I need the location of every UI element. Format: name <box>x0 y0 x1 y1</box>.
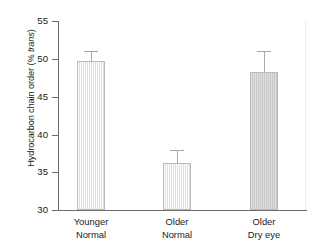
x-category-line2-younger-normal: Normal <box>51 229 131 242</box>
y-axis-title-plain: Hydrocarbon chain order (% <box>26 52 36 167</box>
y-axis-title-italic: trans <box>26 32 36 52</box>
x-category-line1-older-normal: Older <box>166 216 189 227</box>
y-tick-label-55: 55 <box>18 16 48 26</box>
x-axis-line <box>58 210 307 211</box>
y-tick-mark-30 <box>52 210 58 211</box>
y-tick-label-30: 30 <box>18 205 48 215</box>
y-axis-line <box>58 21 59 211</box>
y-tick-mark-45 <box>52 97 58 98</box>
y-tick-mark-55 <box>52 21 58 22</box>
plot-frame-top <box>58 21 306 22</box>
bar-older-normal <box>163 163 191 210</box>
bar-older-dry-eye <box>250 72 278 210</box>
x-category-label-older-dry-eye: Older Dry eye <box>224 216 304 241</box>
y-tick-mark-35 <box>52 172 58 173</box>
x-category-label-older-normal: Older Normal <box>137 216 217 241</box>
y-tick-label-45: 45 <box>18 92 48 102</box>
error-bar-cap-younger-normal <box>84 51 98 52</box>
y-tick-label-50: 50 <box>18 54 48 64</box>
error-bar-cap-older-normal <box>170 150 184 151</box>
error-bar-cap-older-dry-eye <box>257 51 271 52</box>
bar-chart-figure: Hydrocarbon chain order (% trans) 55 50 … <box>0 0 320 249</box>
y-tick-mark-50 <box>52 59 58 60</box>
y-axis-title-tail: ) <box>26 29 36 32</box>
plot-frame-right <box>305 21 306 210</box>
y-tick-mark-40 <box>52 135 58 136</box>
x-category-label-younger-normal: Younger Normal <box>51 216 131 241</box>
error-bar-stem-older-normal <box>177 150 178 163</box>
x-category-line1-older-dry-eye: Older <box>253 216 276 227</box>
error-bar-stem-younger-normal <box>91 51 92 61</box>
y-tick-label-35: 35 <box>18 167 48 177</box>
error-bar-stem-older-dry-eye <box>264 51 265 72</box>
x-category-line2-older-dry-eye: Dry eye <box>224 229 304 242</box>
bar-younger-normal <box>77 61 105 210</box>
y-tick-label-40: 40 <box>18 130 48 140</box>
x-category-line2-older-normal: Normal <box>137 229 217 242</box>
x-category-line1-younger-normal: Younger <box>74 216 109 227</box>
